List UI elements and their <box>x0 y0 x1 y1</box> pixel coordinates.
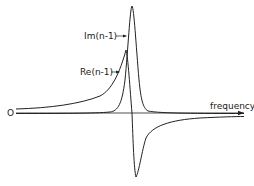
origin-label: O <box>7 108 14 118</box>
figure: O frequency Im(n-1) Re(n-1) <box>0 0 254 186</box>
plot-area <box>0 0 254 186</box>
im-curve-label: Im(n-1) <box>84 31 117 41</box>
im-pointer-arrow-icon <box>123 35 127 38</box>
re-curve-label: Re(n-1) <box>80 67 113 77</box>
im-curve <box>16 6 244 114</box>
x-axis-label: frequency <box>210 101 254 111</box>
